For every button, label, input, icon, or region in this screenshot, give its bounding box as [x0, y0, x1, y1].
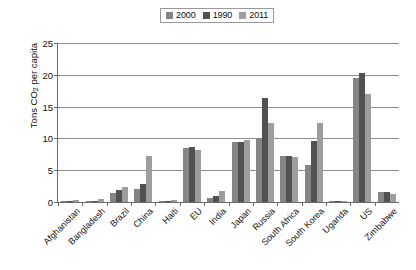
bar-us-2011	[365, 94, 371, 202]
y-tick-label: 0	[48, 197, 53, 208]
legend-swatch-2011	[239, 12, 246, 19]
bar-group	[350, 43, 374, 202]
bar-india-2011	[219, 191, 225, 202]
bar-group	[204, 43, 228, 202]
x-axis-label-haiti: Haiti	[160, 206, 180, 226]
bar-uganda-2011	[341, 201, 347, 202]
x-axis-labels: AfghanistanBangladeshBrazilChinaHaitiEUI…	[57, 206, 398, 268]
bar-afghanistan-2011	[73, 200, 79, 202]
bar-group	[302, 43, 326, 202]
x-axis-label-china: China	[132, 206, 156, 230]
bar-group	[253, 43, 277, 202]
legend-entry-2000: 2000	[166, 11, 196, 20]
bars-layer	[58, 43, 399, 202]
y-axis-title-main: Tons CO	[28, 91, 39, 128]
chart-legend: 2000 1990 2011	[160, 8, 274, 23]
bar-brazil-2011	[122, 187, 128, 202]
bar-haiti-2011	[171, 200, 177, 202]
legend-swatch-1990	[203, 12, 210, 19]
bar-group	[155, 43, 179, 202]
y-tick-label: 10	[42, 133, 53, 144]
legend-label-2000: 2000	[176, 11, 196, 20]
x-axis-label-brazil: Brazil	[108, 206, 131, 229]
bar-group	[277, 43, 301, 202]
bar-japan-2011	[244, 140, 250, 202]
legend-label-2011: 2011	[249, 11, 268, 20]
y-tick-label: 20	[42, 69, 53, 80]
x-axis-label-india: India	[208, 206, 229, 227]
bar-south-africa-2011	[292, 157, 298, 202]
bar-group	[82, 43, 106, 202]
plot-area: 0510152025	[57, 43, 399, 203]
bar-russia-2011	[268, 123, 274, 203]
x-axis-label-japan: Japan	[228, 206, 252, 230]
legend-entry-2011: 2011	[239, 11, 268, 20]
bar-group	[326, 43, 350, 202]
y-tick-label: 25	[42, 38, 53, 49]
bar-china-2011	[146, 156, 152, 202]
legend-swatch-2000	[166, 12, 173, 19]
legend-entry-1990: 1990	[203, 11, 233, 20]
bar-group	[375, 43, 399, 202]
bar-eu-2011	[195, 150, 201, 202]
y-axis-title: Tons CO2 per capita	[28, 1, 39, 171]
bar-group	[107, 43, 131, 202]
y-axis-title-subscript: 2	[32, 87, 39, 91]
x-axis-label-eu: EU	[188, 206, 204, 222]
bar-chart: 2000 1990 2011 Tons CO2 per capita 05101…	[0, 0, 416, 270]
legend-label-1990: 1990	[213, 11, 233, 20]
y-tick-label: 5	[48, 165, 53, 176]
bar-group	[229, 43, 253, 202]
x-axis-label-uganda: Uganda	[321, 206, 350, 235]
y-axis-title-tail: per capita	[28, 43, 39, 87]
bar-south-korea-2011	[317, 123, 323, 202]
x-axis-label-us: US	[359, 206, 375, 222]
y-tick-label: 15	[42, 101, 53, 112]
bar-group	[131, 43, 155, 202]
bar-group	[180, 43, 204, 202]
bar-group	[58, 43, 82, 202]
bar-zimbabwe-2011	[390, 194, 396, 202]
bar-bangladesh-2011	[98, 199, 104, 202]
